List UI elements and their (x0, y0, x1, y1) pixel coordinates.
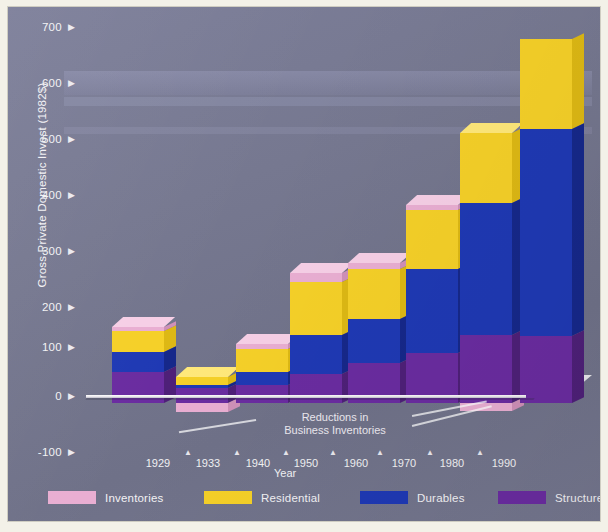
legend-label-structures: Structures (555, 492, 600, 504)
zero-baseline (86, 395, 526, 398)
segment-1970-durables (406, 269, 458, 353)
y-tick-marker-0: ▶ (68, 392, 75, 401)
x-tick-label-1960: 1960 (330, 457, 382, 469)
y-tick-label-100: 100 (16, 341, 62, 353)
segment-1950-durables (290, 335, 342, 374)
y-tick-label-700: 700 (16, 21, 62, 33)
x-tick-marker-1: ▲ (184, 449, 192, 457)
y-tick-marker-minus100: ▶ (68, 448, 75, 457)
x-tick-label-1980: 1980 (426, 457, 478, 469)
legend-item-residential[interactable]: Residential (204, 491, 320, 504)
y-tick-marker-500: ▶ (68, 135, 75, 144)
y-tick-marker-700: ▶ (68, 23, 75, 32)
segment-1990-residential (520, 39, 572, 129)
gridline-band-600b (64, 97, 592, 106)
bar-1960[interactable] (348, 263, 400, 403)
x-tick-marker-6: ▲ (426, 449, 434, 457)
segment-1940-residential (236, 349, 288, 372)
segment-1990-structures (520, 336, 572, 403)
x-tick-label-1933: 1933 (182, 457, 234, 469)
segment-1950-residential (290, 282, 342, 335)
x-tick-marker-4: ▲ (329, 449, 337, 457)
annotation-leader-left (179, 419, 256, 433)
segment-1960-residential (348, 269, 400, 319)
y-tick-marker-600: ▶ (68, 79, 75, 88)
bar-1990[interactable] (520, 39, 572, 403)
x-tick-label-1970: 1970 (378, 457, 430, 469)
annotation-reductions-in-business-inventories: Reductions in Business Inventories (260, 411, 410, 437)
y-tick-marker-200: ▶ (68, 303, 75, 312)
legend-swatch-structures (498, 491, 546, 504)
segment-1940-durables (236, 372, 288, 385)
y-tick-marker-400: ▶ (68, 191, 75, 200)
legend-label-inventories: Inventories (105, 492, 163, 504)
y-tick-label-minus100: -100 (8, 446, 62, 458)
legend-swatch-residential (204, 491, 252, 504)
baseline-shadow (85, 398, 534, 400)
x-tick-marker-2: ▲ (233, 449, 241, 457)
legend-swatch-durables (360, 491, 408, 504)
y-tick-label-0: 0 (16, 390, 62, 402)
segment-1970-residential (406, 210, 458, 269)
x-tick-marker-5: ▲ (376, 449, 384, 457)
chart-panel: 700 ▶ 600 ▶ 500 ▶ 400 ▶ 300 ▶ 200 ▶ 100 … (8, 7, 600, 521)
segment-1933-residential (176, 377, 228, 385)
segment-1933-inventories-negative (176, 403, 228, 412)
segment-1940-structures (236, 385, 288, 403)
y-tick-marker-300: ▶ (68, 247, 75, 256)
segment-1950-inventories (290, 273, 342, 282)
bar-1980[interactable] (460, 133, 512, 403)
segment-1980-residential (460, 133, 512, 203)
y-axis-title: Gross Private Domestic Invest (1982$) (36, 65, 48, 305)
legend-item-durables[interactable]: Durables (360, 491, 465, 504)
legend-item-inventories[interactable]: Inventories (48, 491, 163, 504)
legend-label-durables: Durables (417, 492, 465, 504)
x-tick-label-1990: 1990 (478, 457, 530, 469)
bar-1970[interactable] (406, 205, 458, 403)
segment-1929-residential (112, 331, 164, 352)
segment-1960-durables (348, 319, 400, 363)
annotation-line-1: Reductions in (260, 411, 410, 424)
legend-item-structures[interactable]: Structures (498, 491, 600, 504)
bar-1929[interactable] (112, 327, 164, 403)
chart-legend: Inventories Residential Durables Structu… (8, 477, 600, 521)
x-tick-marker-7: ▲ (476, 449, 484, 457)
segment-1980-structures (460, 335, 512, 403)
gridline-band-600 (64, 71, 592, 95)
screenshot-root: 700 ▶ 600 ▶ 500 ▶ 400 ▶ 300 ▶ 200 ▶ 100 … (0, 0, 608, 532)
segment-1980-durables (460, 203, 512, 335)
x-tick-label-1929: 1929 (132, 457, 184, 469)
legend-label-residential: Residential (261, 492, 320, 504)
segment-1929-inventories (112, 327, 164, 331)
x-tick-marker-3: ▲ (282, 449, 290, 457)
annotation-line-2: Business Inventories (260, 424, 410, 437)
plot-area: 700 ▶ 600 ▶ 500 ▶ 400 ▶ 300 ▶ 200 ▶ 100 … (8, 7, 600, 477)
bar-1950[interactable] (290, 273, 342, 403)
segment-1929-durables (112, 352, 164, 372)
legend-swatch-inventories (48, 491, 96, 504)
y-tick-marker-100: ▶ (68, 343, 75, 352)
segment-1990-durables (520, 129, 572, 336)
